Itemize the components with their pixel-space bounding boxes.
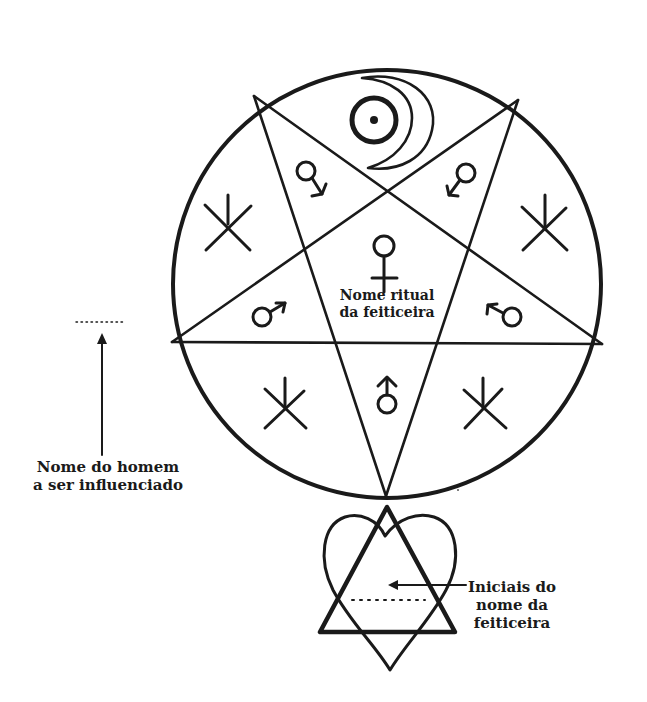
- arrow-left-icon: [388, 580, 398, 590]
- rune-upper-right: [522, 195, 567, 250]
- right-label: Iniciais do nome da feiticeira: [466, 578, 558, 632]
- center-label: Nome ritual da feiticeira: [320, 287, 454, 321]
- right-label-line1: Iniciais do: [466, 578, 558, 596]
- outer-circle: [173, 70, 601, 498]
- center-label-line1: Nome ritual: [320, 287, 454, 304]
- rune-upper-left: [205, 195, 251, 250]
- rune-lower-left: [265, 378, 306, 428]
- rune-lower-right: [464, 378, 506, 428]
- left-label: Nome do homem a ser influenciado: [28, 458, 188, 494]
- left-label-line2: a ser influenciado: [28, 476, 188, 494]
- sun-moon-icon: [352, 77, 433, 169]
- right-label-line2: nome da: [466, 596, 558, 614]
- left-label-line1: Nome do homem: [28, 458, 188, 476]
- heart-triangle-icon: [320, 507, 456, 670]
- mars-icon: [253, 303, 285, 326]
- venus-arrow-icon: [297, 162, 326, 196]
- mars-reversed-icon: [487, 304, 521, 326]
- venus-icon: [372, 236, 397, 292]
- mars-up-icon: [378, 377, 396, 413]
- center-label-line2: da feiticeira: [320, 304, 454, 321]
- venus-arrow-icon: [447, 164, 475, 196]
- left-pointer: [76, 322, 123, 455]
- arrow-up-icon: [97, 333, 107, 344]
- right-label-line3: feiticeira: [466, 614, 558, 632]
